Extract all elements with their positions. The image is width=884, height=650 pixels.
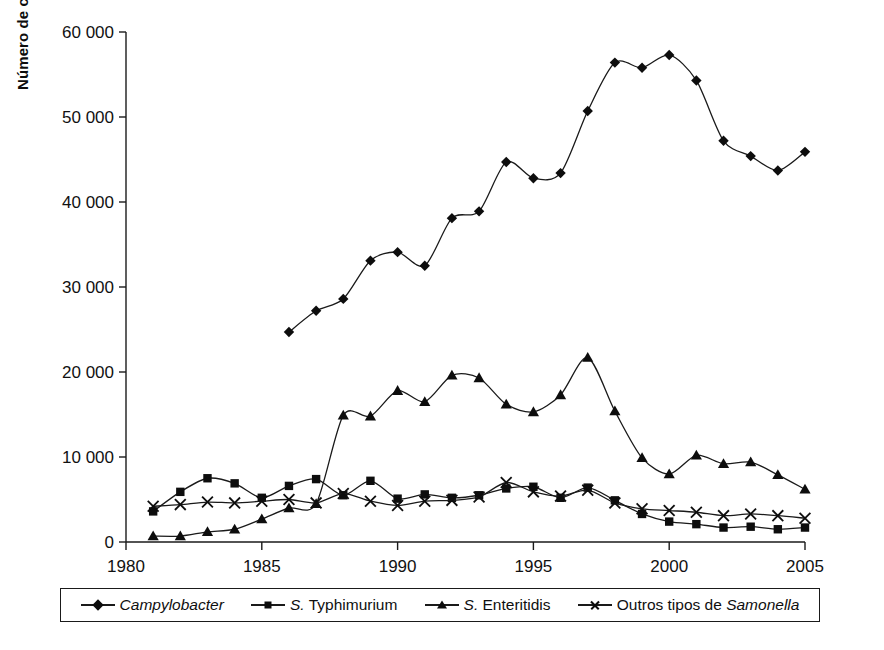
y-tick-label: 50 000 xyxy=(62,108,114,127)
y-tick-label: 10 000 xyxy=(62,448,114,467)
data-point-triangle xyxy=(636,452,647,462)
data-point-diamond xyxy=(664,50,674,60)
plot-area: 010 00020 00030 00040 00050 00060 000 19… xyxy=(0,0,884,580)
y-tick-label: 0 xyxy=(105,533,114,552)
data-point-triangle xyxy=(691,450,702,460)
data-point-triangle xyxy=(772,469,783,479)
x-tick-label: 1985 xyxy=(243,557,281,576)
series-line xyxy=(153,357,805,536)
legend-item-1[interactable]: S. Typhimurium xyxy=(251,596,397,614)
x-tick-label: 2000 xyxy=(650,557,688,576)
data-point-square xyxy=(774,525,782,533)
data-point-square xyxy=(285,482,293,490)
x-tick-label: 1995 xyxy=(514,557,552,576)
data-point-square xyxy=(312,475,320,483)
data-point-diamond xyxy=(773,165,783,175)
series-line xyxy=(289,55,805,332)
legend-item-2[interactable]: S. Enteritidis xyxy=(425,596,551,614)
data-point-square xyxy=(176,488,184,496)
data-point-diamond xyxy=(691,75,701,85)
legend-marker-square-icon xyxy=(251,598,285,612)
y-axis-title: Número de casos notificados xyxy=(8,0,38,90)
data-point-diamond xyxy=(392,247,402,257)
data-point-triangle xyxy=(582,352,593,362)
data-point-diamond xyxy=(447,213,457,223)
data-point-square xyxy=(230,479,238,487)
data-point-square xyxy=(719,523,727,531)
axes-group xyxy=(119,32,805,550)
data-point-diamond xyxy=(745,151,755,161)
y-tick-label: 40 000 xyxy=(62,193,114,212)
legend-label: Outros tipos de Samonella xyxy=(617,596,800,614)
x-tick-label: 2005 xyxy=(786,557,824,576)
data-point-triangle xyxy=(609,406,620,416)
data-point-triangle xyxy=(799,484,810,494)
series-line xyxy=(153,478,805,529)
data-point-triangle xyxy=(392,385,403,395)
y-tick-label: 20 000 xyxy=(62,363,114,382)
data-point-diamond xyxy=(528,173,538,183)
series-2 xyxy=(148,352,811,540)
x-tick-labels: 198019851990199520002005 xyxy=(107,557,824,576)
chart-figure: Número de casos notificados 010 00020 00… xyxy=(0,0,884,650)
chart-legend: CampylobacterS. TyphimuriumS. Enteritidi… xyxy=(60,588,820,622)
legend-marker-triangle-icon xyxy=(425,598,459,612)
y-tick-labels: 010 00020 00030 00040 00050 00060 000 xyxy=(62,23,114,552)
data-point-square xyxy=(746,523,754,531)
data-series-group xyxy=(148,50,811,541)
data-point-square xyxy=(203,474,211,482)
data-point-square xyxy=(665,517,673,525)
data-point-diamond xyxy=(474,206,484,216)
data-point-cross xyxy=(365,496,376,507)
legend-item-0[interactable]: Campylobacter xyxy=(81,596,224,614)
data-point-diamond xyxy=(311,306,321,316)
data-point-triangle xyxy=(473,372,484,382)
data-point-triangle xyxy=(555,389,566,399)
data-point-triangle xyxy=(501,399,512,409)
x-tick-label: 1980 xyxy=(107,557,145,576)
data-point-triangle xyxy=(256,513,267,523)
data-point-triangle xyxy=(148,530,159,540)
series-3 xyxy=(148,477,811,523)
data-point-diamond xyxy=(583,106,593,116)
data-point-square xyxy=(692,520,700,528)
data-point-square xyxy=(801,523,809,531)
legend-label: S. Typhimurium xyxy=(290,596,397,614)
data-point-square xyxy=(366,477,374,485)
legend-marker-cross-icon xyxy=(578,598,612,612)
legend-label: S. Enteritidis xyxy=(464,596,551,614)
legend-marker-diamond-icon xyxy=(81,598,115,612)
legend-label: Campylobacter xyxy=(120,596,224,614)
data-point-triangle xyxy=(365,411,376,421)
series-line xyxy=(153,482,805,518)
y-tick-label: 60 000 xyxy=(62,23,114,42)
series-0 xyxy=(284,50,810,338)
x-tick-label: 1990 xyxy=(379,557,417,576)
data-point-diamond xyxy=(637,63,647,73)
y-tick-label: 30 000 xyxy=(62,278,114,297)
legend-item-3[interactable]: Outros tipos de Samonella xyxy=(578,596,800,614)
